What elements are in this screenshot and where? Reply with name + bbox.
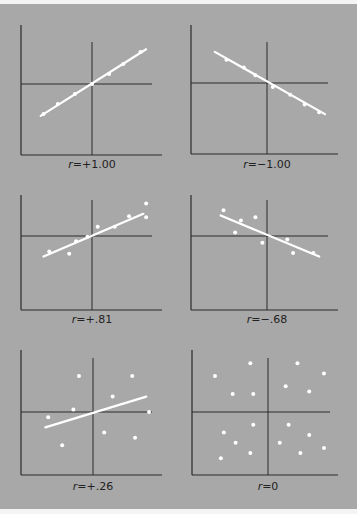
correlation-label: r=−1.00	[243, 158, 290, 171]
data-point	[311, 251, 315, 255]
data-point	[288, 93, 292, 97]
data-point	[322, 446, 326, 450]
correlation-label: r=+.81	[72, 313, 112, 326]
data-point	[260, 241, 264, 245]
data-point	[60, 443, 64, 447]
data-point	[291, 251, 295, 255]
data-point	[127, 214, 131, 218]
data-point	[233, 231, 237, 235]
data-point	[317, 110, 321, 114]
data-point	[102, 431, 106, 435]
data-point	[47, 249, 51, 253]
data-point	[248, 361, 252, 365]
data-point	[77, 374, 81, 378]
data-point	[239, 219, 243, 223]
data-point	[130, 374, 134, 378]
data-point	[284, 384, 288, 388]
data-point	[295, 361, 299, 365]
data-point	[96, 225, 100, 229]
data-point	[253, 73, 257, 77]
data-point	[285, 237, 289, 241]
data-point	[231, 392, 235, 396]
data-point	[298, 451, 302, 455]
r-value: =−.68	[251, 313, 287, 326]
data-point	[322, 372, 326, 376]
data-point	[251, 423, 255, 427]
data-point	[219, 456, 223, 460]
data-point	[46, 415, 50, 419]
data-point	[111, 395, 115, 399]
data-point	[71, 407, 75, 411]
data-point	[113, 225, 117, 229]
data-point	[224, 58, 228, 62]
data-point	[42, 112, 46, 116]
data-point	[147, 410, 151, 414]
figure-background	[0, 4, 357, 509]
r-value: =−1.00	[248, 158, 291, 171]
data-point	[287, 423, 291, 427]
data-point	[138, 50, 142, 54]
correlation-label: r=−.68	[247, 313, 287, 326]
correlation-label: r=+.26	[73, 480, 113, 493]
correlation-label: r=0	[258, 480, 279, 493]
data-point	[307, 433, 311, 437]
data-point	[248, 451, 252, 455]
data-point	[67, 252, 71, 256]
data-point	[133, 436, 137, 440]
r-value: =0	[262, 480, 278, 493]
data-point	[251, 392, 255, 396]
r-value: =+.26	[77, 480, 113, 493]
data-point	[144, 202, 148, 206]
data-point	[242, 65, 246, 69]
correlation-figure: r=+1.00r=−1.00r=+.81r=−.68r=+.26r=0	[0, 0, 357, 514]
data-point	[222, 208, 226, 212]
r-value: =+.81	[76, 313, 112, 326]
data-point	[90, 82, 94, 86]
data-point	[74, 239, 78, 243]
data-point	[107, 72, 111, 76]
data-point	[271, 85, 275, 89]
data-point	[73, 92, 77, 96]
data-point	[307, 389, 311, 393]
data-point	[56, 102, 60, 106]
data-point	[85, 235, 89, 239]
correlation-label: r=+1.00	[68, 158, 115, 171]
data-point	[121, 62, 125, 66]
data-point	[278, 441, 282, 445]
data-point	[222, 431, 226, 435]
data-point	[234, 441, 238, 445]
data-point	[144, 215, 148, 219]
r-value: =+1.00	[73, 158, 116, 171]
data-point	[303, 102, 307, 106]
data-point	[213, 374, 217, 378]
data-point	[253, 215, 257, 219]
